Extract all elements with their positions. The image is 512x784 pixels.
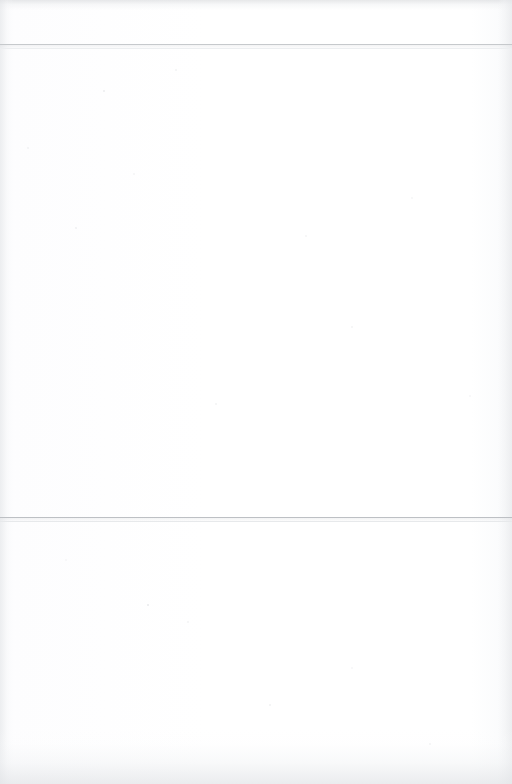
mid-rule [0, 517, 512, 518]
lower-text-block [0, 522, 512, 784]
document-page [0, 0, 512, 784]
top-rule [0, 44, 512, 45]
upper-text-block [0, 49, 512, 517]
header-band [0, 0, 512, 44]
